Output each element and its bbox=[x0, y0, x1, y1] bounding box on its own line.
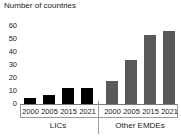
chart-title: Number of countries bbox=[4, 1, 76, 11]
y-axis-tick-label: 60 bbox=[9, 22, 17, 30]
bars-layer bbox=[20, 22, 178, 104]
category-tick-label: 2021 bbox=[160, 107, 180, 116]
y-axis-tick-label: 50 bbox=[9, 35, 17, 43]
y-axis: 6050403020100 bbox=[0, 14, 18, 106]
group-label: LICs bbox=[23, 121, 93, 131]
y-axis-tick-label: 10 bbox=[9, 87, 17, 95]
bar-chart: Number of countries 6050403020100 200020… bbox=[0, 0, 181, 136]
category-axis: 20002005201520212000200520152021 bbox=[20, 104, 178, 118]
bar bbox=[62, 88, 74, 104]
y-axis-tick-label: 30 bbox=[9, 61, 17, 69]
category-tick-label: 2000 bbox=[103, 107, 123, 116]
category-tick-label: 2015 bbox=[59, 107, 79, 116]
bar bbox=[106, 81, 118, 104]
category-tick-label: 2000 bbox=[21, 107, 41, 116]
group-label: Other EMDEs bbox=[105, 121, 175, 131]
bar bbox=[43, 95, 55, 104]
y-axis-tick-label: 0 bbox=[13, 100, 17, 108]
category-tick-label: 2005 bbox=[122, 107, 142, 116]
category-tick-label: 2021 bbox=[78, 107, 98, 116]
bar bbox=[81, 88, 93, 104]
y-axis-tick-label: 40 bbox=[9, 48, 17, 56]
category-tick-label: 2015 bbox=[141, 107, 161, 116]
y-axis-tick-label: 20 bbox=[9, 74, 17, 82]
group-divider bbox=[98, 101, 99, 134]
bar bbox=[144, 35, 156, 104]
bar bbox=[163, 31, 175, 104]
category-tick-label: 2005 bbox=[40, 107, 60, 116]
bar bbox=[125, 60, 137, 104]
